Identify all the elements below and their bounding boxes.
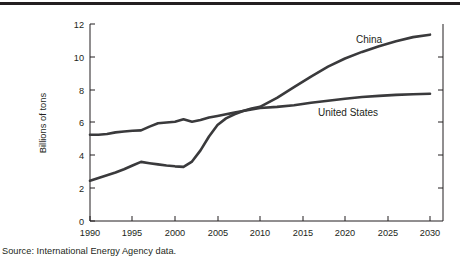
y-tick-label: 2 — [79, 184, 84, 194]
figure-container: 12 10 8 6 4 2 0 1990 1995 2000 2005 2010… — [0, 0, 460, 270]
x-tick-label: 2010 — [250, 228, 270, 238]
x-axis-ticks — [90, 216, 430, 221]
x-tick-label: 2015 — [293, 228, 313, 238]
y-tick-label: 12 — [74, 20, 84, 30]
source-note: Source: International Energy Agency data… — [2, 246, 176, 256]
series-line-china — [90, 35, 430, 181]
series-annotation-china: China — [356, 34, 383, 45]
x-tick-label: 1990 — [80, 228, 100, 238]
emissions-line-chart: 12 10 8 6 4 2 0 1990 1995 2000 2005 2010… — [0, 0, 460, 270]
y-tick-label: 0 — [79, 217, 84, 227]
y-axis-ticks-right — [438, 57, 443, 188]
x-tick-label: 2020 — [335, 228, 355, 238]
x-tick-label: 2000 — [165, 228, 185, 238]
series-annotation-united-states: United States — [318, 107, 378, 118]
y-axis-ticks-left — [90, 24, 95, 221]
series-line-united-states — [90, 94, 430, 135]
x-tick-label: 2005 — [208, 228, 228, 238]
x-tick-label: 2030 — [420, 228, 440, 238]
x-tick-label: 2025 — [378, 228, 398, 238]
y-tick-label: 4 — [79, 151, 84, 161]
y-axis-title: Billions of tons — [37, 92, 48, 153]
x-tick-label: 1995 — [122, 228, 142, 238]
y-axis-tick-labels: 12 10 8 6 4 2 0 — [74, 20, 84, 227]
y-tick-label: 10 — [74, 53, 84, 63]
x-axis-tick-labels: 1990 1995 2000 2005 2010 2015 2020 2025 … — [80, 228, 440, 238]
y-tick-label: 6 — [79, 118, 84, 128]
y-tick-label: 8 — [79, 86, 84, 96]
